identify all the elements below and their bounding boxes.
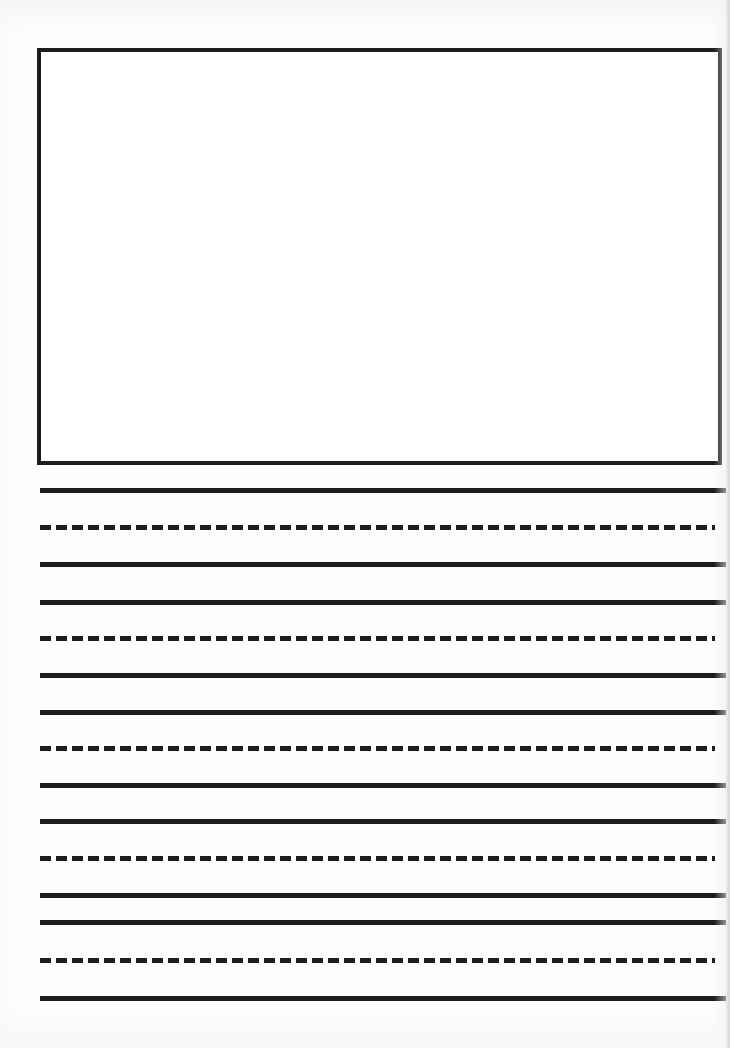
writing-rule-solid-6 xyxy=(40,673,726,678)
writing-rule-solid-10 xyxy=(40,819,726,824)
writing-rule-solid-7 xyxy=(40,710,726,715)
writing-rule-solid-13 xyxy=(40,920,726,925)
writing-rule-dashed-8 xyxy=(40,746,715,751)
writing-rule-dashed-14 xyxy=(40,958,715,963)
writing-rule-dashed-11 xyxy=(40,856,715,861)
writing-lines-area xyxy=(0,0,730,1048)
writing-rule-solid-3 xyxy=(40,562,726,567)
writing-rule-solid-9 xyxy=(40,783,726,788)
writing-rule-dashed-2 xyxy=(40,525,715,530)
writing-rule-solid-12 xyxy=(40,893,726,898)
scan-edge-shadow xyxy=(726,0,730,1048)
writing-rule-solid-15 xyxy=(40,996,726,1001)
writing-rule-solid-1 xyxy=(40,488,726,493)
writing-rule-solid-4 xyxy=(40,600,726,605)
worksheet-page xyxy=(0,0,730,1048)
writing-rule-dashed-5 xyxy=(40,636,715,641)
